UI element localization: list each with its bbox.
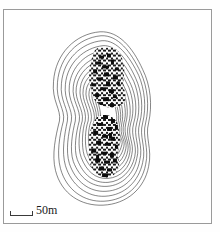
scale-bar-line (10, 209, 33, 216)
contour-plot-area (4, 10, 211, 223)
scale-bar-tick-right (32, 211, 33, 216)
figure-frame: 50m (3, 9, 212, 224)
scale-bar-rule (10, 215, 33, 216)
scale-bar-label: 50m (36, 205, 57, 216)
contour-svg (4, 10, 211, 223)
scale-bar: 50m (10, 205, 57, 216)
contour-map-figure: 50m (0, 0, 220, 232)
